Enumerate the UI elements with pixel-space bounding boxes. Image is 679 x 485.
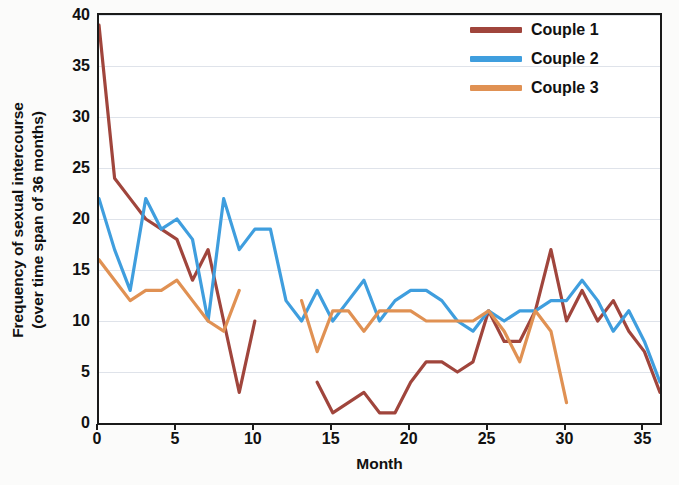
y-tick-label: 35 bbox=[50, 57, 90, 75]
chart-figure: Frequency of sexual intercourse (over ti… bbox=[0, 0, 679, 485]
y-tick-label: 25 bbox=[50, 159, 90, 177]
x-tick-label: 35 bbox=[622, 430, 662, 448]
legend-color-swatch bbox=[470, 27, 522, 33]
y-tick-label: 40 bbox=[50, 6, 90, 24]
x-tick-label: 30 bbox=[545, 430, 585, 448]
y-tick-label: 10 bbox=[50, 312, 90, 330]
legend-label: Couple 1 bbox=[531, 21, 599, 39]
legend-label: Couple 2 bbox=[531, 50, 599, 68]
y-tick-label: 20 bbox=[50, 210, 90, 228]
legend-label: Couple 3 bbox=[531, 79, 599, 97]
legend-color-swatch bbox=[470, 56, 522, 62]
y-axis-title-line1: Frequency of sexual intercourse bbox=[8, 102, 28, 338]
x-axis-title: Month bbox=[97, 455, 662, 473]
x-tick-label: 15 bbox=[311, 430, 351, 448]
y-tick-label: 5 bbox=[50, 363, 90, 381]
y-tick-label: 30 bbox=[50, 108, 90, 126]
x-tick-label: 20 bbox=[389, 430, 429, 448]
series-line-couple-1 bbox=[317, 250, 660, 413]
x-tick-label: 5 bbox=[155, 430, 195, 448]
legend-item: Couple 3 bbox=[470, 78, 650, 98]
x-tick-label: 0 bbox=[77, 430, 117, 448]
legend-item: Couple 2 bbox=[470, 49, 650, 69]
x-axis-tick-labels: 05101520253035 bbox=[97, 430, 662, 452]
series-line-couple-3 bbox=[302, 301, 567, 403]
legend-item: Couple 1 bbox=[470, 20, 650, 40]
chart-legend: Couple 1Couple 2Couple 3 bbox=[470, 20, 650, 98]
x-tick-label: 10 bbox=[233, 430, 273, 448]
y-tick-label: 15 bbox=[50, 261, 90, 279]
y-axis-tick-labels: 0510152025303540 bbox=[44, 13, 90, 425]
series-line-couple-1 bbox=[99, 25, 255, 392]
legend-color-swatch bbox=[470, 85, 522, 91]
x-tick-label: 25 bbox=[467, 430, 507, 448]
